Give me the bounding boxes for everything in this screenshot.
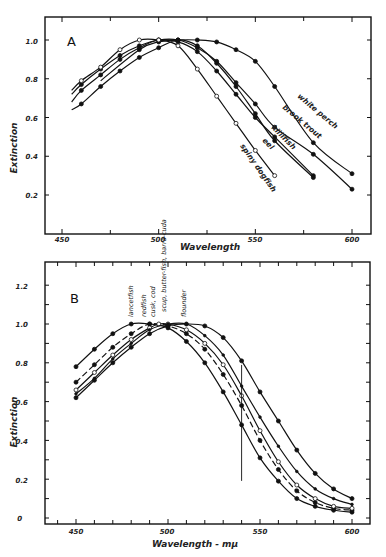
y-tick-label: 0.4: [26, 153, 39, 161]
data-point: [215, 40, 219, 44]
data-point: [215, 94, 219, 98]
data-point: [129, 345, 133, 349]
data-point: [215, 61, 219, 65]
data-point: [99, 85, 103, 89]
data-point: [203, 347, 207, 351]
data-point: [276, 479, 280, 483]
panel-b-y-tick-labels: 0 0.2 0.4 0.6 0.8 1.0 1.2: [16, 283, 29, 523]
data-point: [148, 329, 151, 332]
data-point: [92, 347, 96, 351]
panel-a-frame: [45, 17, 371, 94]
data-point: [157, 38, 161, 42]
data-point: [74, 365, 78, 369]
data-point: [350, 172, 354, 176]
data-point: [184, 332, 188, 336]
panel-b-plot: [45, 262, 370, 524]
data-point: [234, 85, 238, 89]
data-point: [332, 504, 336, 508]
x-tick-label: 550: [253, 528, 268, 536]
data-point: [184, 339, 188, 343]
data-point: [221, 390, 225, 394]
data-point: [111, 353, 115, 357]
y-tick-label: 0.8: [16, 360, 29, 368]
plot-frame: [45, 17, 371, 234]
data-point: [118, 57, 122, 61]
data-point: [253, 112, 257, 116]
data-point: [79, 102, 83, 106]
data-point: [137, 55, 141, 59]
data-point: [195, 67, 199, 71]
x-tick-label: 500: [160, 528, 175, 536]
data-point: [277, 445, 280, 448]
data-point: [258, 390, 262, 394]
data-point: [276, 460, 280, 464]
data-point: [203, 361, 207, 365]
panel-a-curve-labels: white perch brook trout killifish eel sp…: [238, 92, 339, 194]
data-point: [130, 342, 133, 345]
data-point: [253, 148, 257, 152]
data-point: [74, 388, 78, 392]
data-point: [129, 322, 133, 326]
data-point: [258, 438, 262, 442]
x-tick-label: 550: [248, 236, 263, 244]
figure: A Wavelength Extinction 450 500 550 600 …: [0, 0, 386, 557]
series-line: [76, 323, 352, 508]
data-point: [195, 50, 199, 54]
panel-a-ylabel: Extinction: [9, 122, 19, 173]
data-point: [148, 332, 152, 336]
y-tick-label: 0.4: [16, 438, 29, 446]
data-point: [313, 497, 317, 501]
x-tick-label: 600: [345, 528, 360, 536]
data-point: [314, 488, 317, 491]
data-point: [137, 46, 141, 50]
data-point: [259, 416, 262, 419]
data-point: [92, 378, 96, 382]
data-point: [215, 69, 219, 73]
data-point: [79, 79, 83, 83]
data-point: [111, 332, 115, 336]
peak-label-redfish: redfish: [140, 294, 148, 317]
data-point: [176, 44, 180, 48]
data-point: [203, 324, 207, 328]
panel-b-letter: B: [70, 291, 79, 306]
data-point: [295, 483, 299, 487]
x-tick-label: 600: [345, 236, 360, 244]
data-point: [350, 497, 354, 501]
data-point: [273, 174, 277, 178]
peak-label-flounder: flounder: [180, 288, 188, 317]
peak-label-scup-butterfish-barracuda: scup, butter-fish, barra-cuda: [160, 219, 168, 312]
y-tick-label: 0.8: [26, 76, 39, 84]
data-point: [276, 419, 280, 423]
data-point: [184, 322, 188, 326]
data-point: [79, 83, 83, 87]
data-point: [332, 497, 335, 500]
data-point: [221, 372, 225, 376]
data-point: [253, 59, 257, 63]
data-point: [295, 448, 299, 452]
data-point: [295, 489, 299, 493]
data-point: [176, 38, 180, 42]
data-point: [204, 334, 207, 337]
data-point: [276, 468, 280, 472]
data-point: [112, 358, 115, 361]
data-point: [240, 359, 244, 363]
panel-a-letter: A: [67, 34, 76, 49]
data-point: [350, 187, 354, 191]
y-tick-label: 0.2: [16, 477, 29, 485]
data-point: [221, 363, 225, 367]
peak-label-cusk-cod: cusk, cod: [149, 285, 157, 317]
data-point: [137, 38, 141, 42]
data-point: [129, 338, 133, 342]
y-tick-label: 0.2: [26, 192, 39, 200]
y-tick-label: 0.6: [26, 115, 39, 123]
peak-label-lancetfish: lancetfish: [127, 285, 135, 317]
x-tick-label: 450: [55, 236, 70, 244]
data-point: [234, 92, 238, 96]
data-point: [184, 328, 188, 332]
data-point: [332, 487, 336, 491]
data-point: [129, 332, 133, 336]
data-point: [118, 69, 122, 73]
data-point: [99, 65, 103, 69]
data-point: [111, 345, 115, 349]
data-point: [296, 470, 299, 473]
